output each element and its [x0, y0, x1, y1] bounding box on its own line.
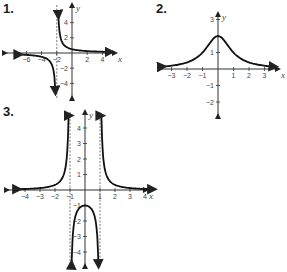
svg-text:y: y [75, 3, 80, 13]
svg-text:−6: −6 [22, 56, 30, 63]
svg-text:3: 3 [263, 72, 267, 79]
svg-text:3: 3 [128, 193, 132, 200]
svg-text:−3: −3 [36, 193, 44, 200]
svg-text:3: 3 [77, 140, 81, 147]
svg-text:2: 2 [77, 156, 81, 163]
svg-text:2: 2 [85, 56, 89, 63]
graph-1: −6−4−22442−2−4xy [5, 3, 122, 98]
svg-text:−4: −4 [73, 249, 81, 256]
svg-text:−2: −2 [206, 99, 214, 106]
svg-text:2: 2 [64, 34, 68, 41]
svg-text:−2: −2 [183, 72, 191, 79]
svg-text:3: 3 [210, 16, 214, 23]
svg-text:−2: −2 [60, 65, 68, 72]
svg-text:−1: −1 [206, 82, 214, 89]
svg-text:x: x [280, 70, 285, 80]
svg-text:1: 1 [232, 72, 236, 79]
svg-text:4: 4 [143, 193, 147, 200]
graph-3: −4−3−2−112344321−1−2−3−4xy [7, 110, 153, 266]
svg-text:−3: −3 [168, 72, 176, 79]
graphs-canvas: −6−4−22442−2−4xy −3−2−112331−1−2xy −4−3−… [0, 0, 287, 272]
svg-text:−4: −4 [60, 80, 68, 87]
svg-text:−1: −1 [199, 72, 207, 79]
svg-text:x: x [148, 191, 153, 201]
svg-text:−3: −3 [73, 233, 81, 240]
svg-text:y: y [221, 12, 226, 22]
svg-text:2: 2 [113, 193, 117, 200]
svg-text:−4: −4 [21, 193, 29, 200]
svg-text:2: 2 [247, 72, 251, 79]
svg-text:−2: −2 [51, 193, 59, 200]
svg-text:1: 1 [77, 171, 81, 178]
svg-text:1: 1 [210, 49, 214, 56]
graph-2: −3−2−112331−1−2xy [160, 12, 285, 116]
svg-text:y: y [88, 110, 93, 120]
svg-text:4: 4 [64, 19, 68, 26]
svg-text:4: 4 [100, 56, 104, 63]
svg-text:4: 4 [77, 125, 81, 132]
svg-text:x: x [117, 54, 122, 64]
